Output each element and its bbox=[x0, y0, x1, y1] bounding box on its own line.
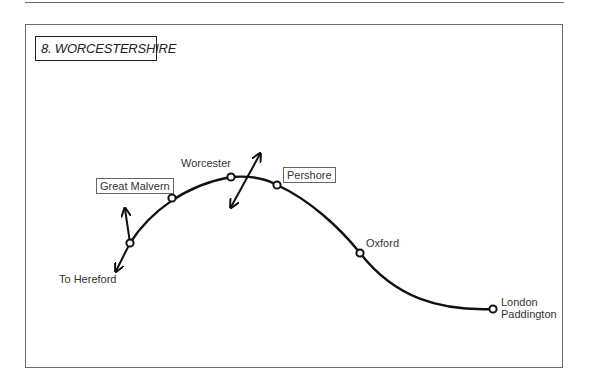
station-marker-london bbox=[489, 305, 496, 312]
station-label-london: London bbox=[501, 296, 538, 308]
station-label-paddington: Paddington bbox=[501, 308, 557, 320]
station-marker-pershore bbox=[273, 181, 280, 188]
station-marker-junction bbox=[126, 239, 133, 246]
station-label-pershore: Pershore bbox=[283, 167, 336, 183]
direction-label-hereford: To Hereford bbox=[59, 273, 116, 285]
station-label-worcester: Worcester bbox=[181, 157, 231, 169]
station-label-oxford: Oxford bbox=[366, 237, 399, 249]
station-label-great-malvern: Great Malvern bbox=[96, 178, 174, 194]
route-line bbox=[130, 177, 493, 310]
hereford-arrow bbox=[116, 243, 130, 271]
branch-arrow-up bbox=[125, 209, 130, 243]
station-marker-worcester bbox=[227, 173, 234, 180]
station-marker-oxford bbox=[356, 249, 363, 256]
diagram-title: 8. WORCESTERSHIRE bbox=[35, 36, 157, 61]
crossing-arrow bbox=[231, 154, 260, 207]
station-marker-great-malvern bbox=[168, 194, 175, 201]
